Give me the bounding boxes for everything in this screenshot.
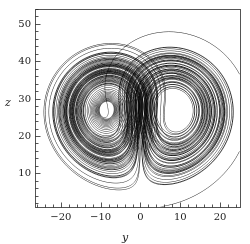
y-tick-label: 40 <box>18 56 31 66</box>
x-tick-label: 20 <box>214 212 227 222</box>
y-tick-label: 30 <box>18 94 31 104</box>
lorenz-attractor-plot <box>0 0 250 244</box>
x-tick-label: −20 <box>50 212 71 222</box>
y-tick-label: 20 <box>18 131 31 141</box>
lorenz-attractor-figure: −20−10010201020304050 y z <box>0 0 250 244</box>
x-axis-label: y <box>0 232 250 243</box>
y-axis-label: z <box>2 97 14 108</box>
x-tick-label: 10 <box>174 212 187 222</box>
y-tick-label: 10 <box>18 168 31 178</box>
x-tick-label: 0 <box>137 212 143 222</box>
x-tick-label: −10 <box>90 212 111 222</box>
y-tick-label: 50 <box>18 19 31 29</box>
